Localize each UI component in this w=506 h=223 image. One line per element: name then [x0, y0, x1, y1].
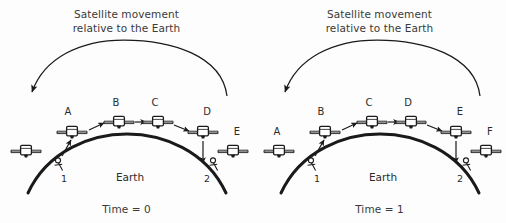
satellite-label-a: A: [274, 126, 281, 137]
satellite-icon-e: [441, 126, 471, 138]
hop-c-to-d: [174, 125, 189, 131]
ground-station-icon-1: [308, 158, 316, 171]
satellite-label-f: F: [487, 126, 493, 137]
satellite-label-c: C: [366, 97, 373, 108]
satellite-label-e: E: [457, 106, 463, 117]
satellite-label-d: D: [203, 106, 211, 117]
satellite-icon-f: [471, 145, 501, 157]
ground-station-label-2: 2: [457, 173, 463, 184]
satellite-movement-diagram: Satellite movement relative to the Earth: [0, 0, 506, 223]
earth-label: Earth: [116, 171, 144, 183]
panel-caption: Time = 0: [0, 203, 253, 215]
satellite-movement-arc-arrow: [32, 40, 227, 96]
earth-surface-arc: [281, 134, 479, 193]
satellite-icon-b: [310, 126, 340, 138]
panel-time-1: Satellite movement relative to the Earth: [253, 0, 506, 223]
panel-caption: Time = 1: [253, 203, 506, 215]
earth-surface-arc: [28, 134, 226, 193]
satellite-icon-d: [396, 116, 426, 128]
panel-drawing-area: A B C D E F 1 2 Earth: [253, 0, 506, 223]
ground-station-label-1: 1: [314, 173, 320, 184]
ground-station-icon-1: [55, 158, 63, 171]
hop-a-to-b: [89, 123, 104, 130]
satellite-icon-c: [357, 116, 387, 128]
satellite-icon-a: [264, 145, 294, 157]
ground-station-label-2: 2: [204, 173, 210, 184]
satellite-icon-c: [143, 116, 173, 128]
earth-label: Earth: [369, 171, 397, 183]
satellite-label-a: A: [65, 106, 72, 117]
ground-station-label-1: 1: [61, 173, 67, 184]
hop-b-to-c: [342, 123, 357, 130]
satellite-label-e: E: [234, 126, 240, 137]
satellite-icon-d: [188, 126, 218, 138]
satellite-icon-a: [57, 126, 87, 138]
satellite-label-d: D: [404, 97, 412, 108]
satellite-icon-e: [218, 145, 248, 157]
panel-drawing-area: A B C D E 1 2 Earth: [0, 0, 253, 223]
panel-time-0: Satellite movement relative to the Earth: [0, 0, 253, 223]
satellite-icon-prelaunch: [11, 145, 41, 157]
satellite-icon-b: [104, 116, 134, 128]
satellite-label-b: B: [318, 106, 325, 117]
satellite-label-b: B: [113, 97, 120, 108]
satellite-movement-arc-arrow: [285, 40, 480, 96]
hop-d-to-e: [427, 125, 442, 131]
satellite-label-c: C: [152, 97, 159, 108]
